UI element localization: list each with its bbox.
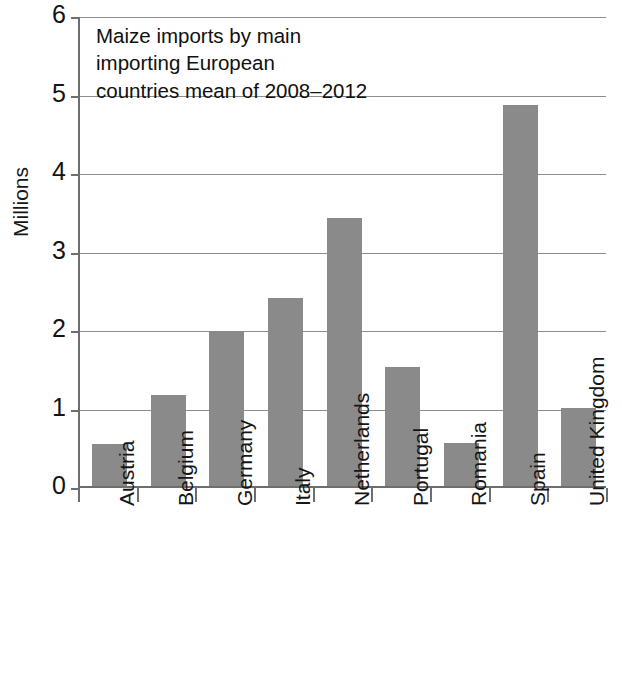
x-tick-label: Belgium xyxy=(175,430,196,506)
y-tick-mark xyxy=(71,17,80,19)
chart-title-line: countries mean of 2008–2012 xyxy=(96,77,367,104)
y-tick-label: 5 xyxy=(26,81,66,106)
y-tick-mark xyxy=(71,410,80,412)
y-tick-label: 3 xyxy=(26,238,66,263)
bar-chart: Millions 0123456 AustriaBelgiumGermanyIt… xyxy=(0,0,622,698)
y-tick-label: 2 xyxy=(26,316,66,341)
bar xyxy=(503,105,538,486)
y-tick-label: 0 xyxy=(26,473,66,498)
x-tick-label: Romania xyxy=(468,422,489,506)
x-tick-label: Austria xyxy=(116,441,137,506)
y-tick-mark xyxy=(71,331,80,333)
x-tick-label: United Kingdom xyxy=(586,357,607,506)
chart-title: Maize imports by mainimporting Europeanc… xyxy=(96,22,367,104)
y-tick-label: 6 xyxy=(26,2,66,27)
x-tick-label: Portugal xyxy=(410,428,431,506)
y-tick-mark xyxy=(71,174,80,176)
chart-title-line: Maize imports by main xyxy=(96,22,367,49)
bar xyxy=(268,298,303,486)
y-tick-label: 1 xyxy=(26,395,66,420)
y-tick-label: 4 xyxy=(26,159,66,184)
x-tick-label: Germany xyxy=(234,420,255,506)
y-tick-mark xyxy=(71,96,80,98)
y-tick-mark xyxy=(71,253,80,255)
x-tick-mark xyxy=(78,488,80,502)
chart-title-line: importing European xyxy=(96,49,367,76)
x-tick-label: Netherlands xyxy=(351,393,372,506)
x-tick-label: Italy xyxy=(292,467,313,506)
x-tick-label: Spain xyxy=(527,452,548,506)
